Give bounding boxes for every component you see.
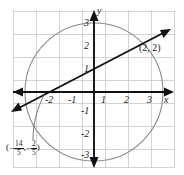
x-tick-neg1: -1: [68, 95, 76, 105]
x-tick-1: 1: [101, 95, 106, 105]
x-axis-label: x: [164, 95, 168, 105]
fraction-x-denominator: 5: [14, 148, 24, 157]
fraction-x: 145: [14, 140, 24, 157]
y-axis-label: y: [97, 6, 101, 16]
fraction-x-numerator: 14: [14, 140, 24, 148]
point-label-upper: (2, 2): [139, 43, 161, 53]
x-tick-neg2: -2: [45, 95, 53, 105]
y-tick-neg1: -1: [81, 106, 89, 116]
y-axis: [90, 10, 99, 168]
x-tick-3: 3: [147, 95, 152, 105]
y-tick-neg3: -3: [81, 150, 89, 160]
y-tick-1: 1: [84, 64, 89, 74]
graph-figure: -2 -1 1 2 3 3 2 1 -1 -2 -3 x y (2, 2) (−…: [0, 0, 184, 175]
point-label-lower: (−145,−25): [6, 140, 40, 157]
x-tick-2: 2: [124, 95, 129, 105]
y-tick-2: 2: [84, 41, 89, 51]
y-tick-3: 3: [84, 18, 89, 28]
y-tick-neg2: -2: [81, 129, 89, 139]
paren-close: ): [37, 142, 40, 152]
